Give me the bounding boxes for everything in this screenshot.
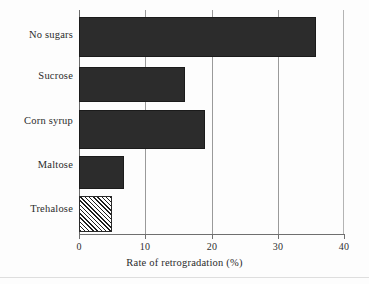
y-axis-label-sucrose: Sucrose — [38, 70, 73, 81]
x-tick-mark-30 — [278, 234, 279, 239]
x-tick-label-10: 10 — [130, 241, 160, 252]
y-axis-label-maltose: Maltose — [38, 159, 73, 170]
bar-sucrose — [79, 67, 185, 102]
y-axis-category-labels: No sugars Sucrose Corn syrup Maltose Tre… — [0, 0, 73, 284]
x-tick-label-20: 20 — [197, 241, 227, 252]
y-axis-label-trehalose: Trehalose — [30, 203, 73, 214]
gridline-40 — [343, 10, 344, 234]
bar-chart-figure: No sugars Sucrose Corn syrup Maltose Tre… — [0, 0, 369, 284]
bar-corn-syrup — [79, 110, 205, 149]
bar-no-sugars — [79, 17, 316, 57]
x-tick-mark-40 — [344, 234, 345, 239]
bar-trehalose — [79, 196, 112, 232]
y-axis-label-no-sugars: No sugars — [29, 29, 73, 40]
x-tick-mark-20 — [212, 234, 213, 239]
x-tick-mark-0 — [79, 234, 80, 239]
x-tick-mark-10 — [145, 234, 146, 239]
x-tick-label-40: 40 — [329, 241, 359, 252]
x-axis-title: Rate of retrogradation (%) — [0, 257, 369, 268]
plot-area — [79, 10, 344, 234]
x-tick-label-0: 0 — [64, 241, 94, 252]
y-axis-label-corn-syrup: Corn syrup — [24, 115, 73, 126]
bar-maltose — [79, 156, 124, 189]
x-tick-label-30: 30 — [263, 241, 293, 252]
